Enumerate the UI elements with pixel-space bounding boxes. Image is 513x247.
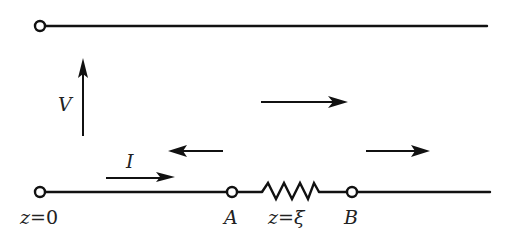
bottom-conductor (35, 183, 490, 199)
resistor-icon (262, 183, 319, 199)
incident-wave-arrow (261, 96, 348, 108)
transmission-line-diagram: V I z=0 A z=ξ B (0, 0, 513, 247)
top-terminal-node (35, 21, 45, 31)
current-arrow: I (106, 150, 175, 182)
current-label: I (125, 150, 134, 172)
resistor-position-label: z=ξ (267, 206, 306, 228)
origin-node (35, 187, 45, 197)
top-conductor (35, 21, 487, 31)
origin-label: z=0 (19, 206, 58, 228)
node-b-label: B (343, 206, 358, 228)
node-b (347, 187, 357, 197)
position-labels: z=0 A z=ξ B (19, 206, 358, 228)
voltage-label: V (58, 93, 74, 115)
transmitted-wave-arrow (366, 145, 430, 157)
node-a (227, 187, 237, 197)
node-a-label: A (222, 206, 238, 228)
reflected-wave-arrow (168, 145, 223, 157)
voltage-arrow: V (58, 58, 88, 136)
